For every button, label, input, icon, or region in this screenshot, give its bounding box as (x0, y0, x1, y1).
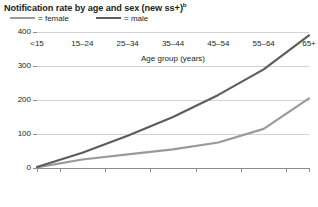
y-tick-label-100: 100 (1, 129, 31, 138)
chart-title: Notification rate by age and sex (new ss… (4, 1, 187, 13)
x-axis-title: Age group (years) (37, 54, 309, 63)
legend-equals-male: = (124, 14, 129, 23)
y-tick-label-200: 200 (1, 95, 31, 104)
x-tick-label-1: 15–24 (71, 39, 93, 48)
legend-swatch-male (96, 17, 121, 19)
x-tick-mark-3 (196, 168, 197, 172)
x-tick-label-5: 55–64 (253, 39, 275, 48)
legend-label-female: female (45, 14, 69, 23)
x-tick-mark-5 (286, 168, 287, 172)
x-tick-label-4: 45–54 (207, 39, 229, 48)
chart-title-text: Notification rate by age and sex (new ss… (4, 3, 183, 13)
x-tick-label-3: 35–44 (162, 39, 184, 48)
x-tick-mark-edge-1 (309, 168, 310, 172)
chart-title-footnote-marker: b (183, 1, 187, 8)
legend-swatch-female (10, 17, 35, 19)
y-tick-label-400: 400 (1, 27, 31, 36)
x-tick-label-6: 65+ (302, 39, 316, 48)
x-tick-mark-edge-0 (37, 168, 38, 172)
chart-legend: = female = male (10, 14, 310, 25)
x-tick-mark-0 (60, 168, 61, 172)
legend-item-female: = female (10, 14, 69, 25)
x-tick-mark-1 (105, 168, 106, 172)
y-tick-label-0: 0 (1, 163, 31, 172)
y-tick-label-300: 300 (1, 61, 31, 70)
x-tick-label-2: 25–34 (117, 39, 139, 48)
x-tick-mark-4 (241, 168, 242, 172)
plot-area: 0100200300400 <1515–2425–3435–4445–5455–… (37, 32, 309, 168)
legend-label-male: male (131, 14, 148, 23)
series-line-female (37, 98, 309, 167)
series-lines (37, 32, 309, 168)
legend-item-male: = male (96, 14, 148, 25)
chart-container: Notification rate by age and sex (new ss… (0, 0, 318, 207)
x-tick-label-0: <15 (30, 39, 44, 48)
x-tick-mark-2 (150, 168, 151, 172)
x-axis-line (37, 168, 309, 169)
legend-equals-female: = (38, 14, 43, 23)
